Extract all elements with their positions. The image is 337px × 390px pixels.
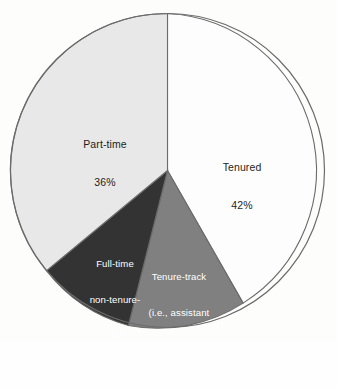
pie-label-tenure-track-line3: professors)	[137, 342, 221, 354]
pie-label-full-time-value: 10%	[74, 364, 156, 376]
pie-label-tenure-track-value: 12%	[137, 377, 221, 389]
